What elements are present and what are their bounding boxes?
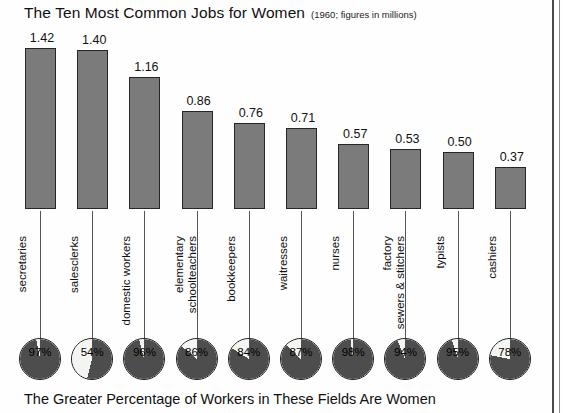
pie-filled-share xyxy=(385,339,425,379)
bar-value-label: 1.16 xyxy=(120,60,172,74)
pie-percent-label: 94% xyxy=(385,346,425,358)
percent-pie[interactable]: 87% xyxy=(280,338,322,380)
bar[interactable] xyxy=(495,167,526,209)
category-label: elementary xyxy=(173,236,187,331)
pie-filled-share xyxy=(438,339,478,379)
bar[interactable] xyxy=(182,111,213,209)
category-label: bookkeepers xyxy=(225,236,239,331)
percent-pie[interactable]: 95% xyxy=(437,338,479,380)
pie-filled-share xyxy=(20,339,60,379)
pie-filled-share xyxy=(281,339,321,379)
category-label: waitresses xyxy=(277,236,291,331)
pie-percent-label: 95% xyxy=(438,346,478,358)
infographic-chart: The Ten Most Common Jobs for Women(1960;… xyxy=(0,0,563,413)
category-label: nurses xyxy=(329,236,343,331)
bar[interactable] xyxy=(286,128,317,209)
bar-value-label: 0.57 xyxy=(329,127,381,141)
pie-percent-label: 78% xyxy=(490,346,530,358)
bar-value-label: 0.37 xyxy=(486,150,538,164)
leader-line xyxy=(458,211,459,338)
bar[interactable] xyxy=(25,48,56,209)
pie-percent-label: 86% xyxy=(177,346,217,358)
bar-value-label: 1.42 xyxy=(16,31,68,45)
plot-area: 1.42secretaries97%1.40salesclerks54%1.16… xyxy=(0,0,563,413)
pie-percent-label: 84% xyxy=(229,346,269,358)
pie-percent-label: 97% xyxy=(20,346,60,358)
chart-caption: The Greater Percentage of Workers in The… xyxy=(24,391,436,407)
pie-filled-share xyxy=(177,339,217,379)
percent-pie[interactable]: 98% xyxy=(332,338,374,380)
bar-value-label: 0.86 xyxy=(173,94,225,108)
bar-value-label: 1.40 xyxy=(68,33,120,47)
pie-percent-label: 54% xyxy=(72,346,112,358)
percent-pie[interactable]: 84% xyxy=(228,338,270,380)
percent-pie[interactable]: 78% xyxy=(489,338,531,380)
bar[interactable] xyxy=(338,144,369,209)
percent-pie[interactable]: 97% xyxy=(19,338,61,380)
leader-line xyxy=(353,211,354,338)
leader-line xyxy=(40,211,41,338)
leader-line xyxy=(92,211,93,338)
pie-filled-share xyxy=(229,339,269,379)
percent-pie[interactable]: 54% xyxy=(71,338,113,380)
leader-line xyxy=(144,211,145,338)
leader-line xyxy=(197,211,198,338)
bar[interactable] xyxy=(390,149,421,209)
category-label: salesclerks xyxy=(68,236,82,331)
bar[interactable] xyxy=(77,50,108,209)
leader-line xyxy=(249,211,250,338)
leader-line xyxy=(510,211,511,338)
bar-value-label: 0.76 xyxy=(225,106,277,120)
pie-filled-share xyxy=(490,339,530,379)
leader-line xyxy=(405,211,406,338)
category-label: secretaries xyxy=(16,236,30,331)
pie-percent-label: 98% xyxy=(333,346,373,358)
category-label: domestic workers xyxy=(120,236,134,331)
bar[interactable] xyxy=(443,152,474,209)
bar-value-label: 0.71 xyxy=(277,111,329,125)
percent-pie[interactable]: 86% xyxy=(176,338,218,380)
pie-filled-share xyxy=(333,339,373,379)
bar-value-label: 0.50 xyxy=(434,135,486,149)
bar[interactable] xyxy=(129,77,160,209)
bar[interactable] xyxy=(234,123,265,209)
pie-percent-label: 87% xyxy=(281,346,321,358)
pie-filled-share xyxy=(72,339,112,379)
pie-percent-label: 96% xyxy=(124,346,164,358)
leader-line xyxy=(301,211,302,338)
category-label: cashiers xyxy=(486,236,500,331)
category-label: typists xyxy=(434,236,448,331)
bar-value-label: 0.53 xyxy=(381,132,433,146)
pie-filled-share xyxy=(124,339,164,379)
